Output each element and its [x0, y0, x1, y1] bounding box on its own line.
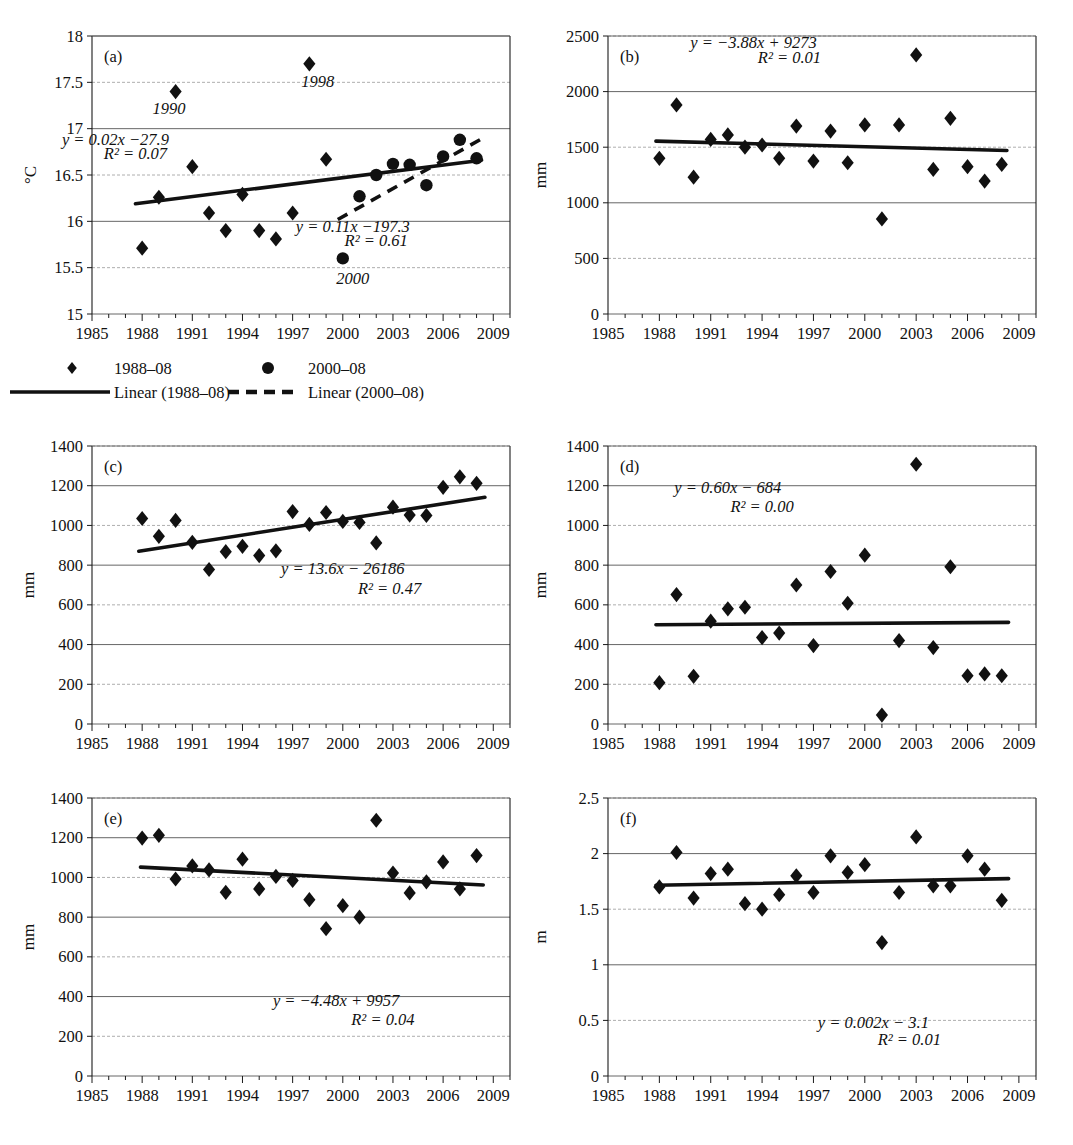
data-point-diamond [470, 476, 482, 491]
panel-f: 00.511.522.51985198819911994199720002003… [500, 780, 1073, 1120]
data-point-diamond [773, 151, 785, 166]
data-point-diamond [688, 170, 700, 185]
data-point-diamond [705, 614, 717, 629]
data-point-diamond [842, 596, 854, 611]
data-point-diamond [203, 562, 215, 577]
legend-label-linear-1988: Linear (1988–08) [114, 383, 230, 402]
x-tick-label: 2003 [900, 324, 933, 343]
legend-label-2000: 2000–08 [308, 359, 366, 378]
data-point-diamond [790, 118, 802, 133]
panel-c: 0200400600800100012001400198519881991199… [0, 428, 540, 758]
data-point-diamond [186, 159, 198, 174]
data-point-diamond [688, 669, 700, 684]
data-point-diamond [236, 539, 248, 554]
panel-id-label: (e) [104, 809, 122, 828]
y-axis-title: m [531, 930, 550, 943]
data-point-diamond [893, 633, 905, 648]
data-point-circle [403, 159, 415, 171]
x-tick-label: 2003 [900, 734, 933, 753]
data-point-diamond [773, 887, 785, 902]
annotation-text: R² = 0.04 [350, 1010, 414, 1029]
y-tick-label: 500 [574, 249, 599, 268]
y-tick-label: 0 [75, 1067, 83, 1086]
x-tick-label: 1994 [746, 324, 779, 343]
data-point-diamond [979, 666, 991, 681]
y-axis-title: mm [19, 924, 38, 950]
y-tick-label: 600 [58, 947, 83, 966]
y-tick-label: 2 [591, 844, 599, 863]
data-point-diamond [979, 174, 991, 189]
data-point-diamond [287, 504, 299, 519]
y-tick-label: 1400 [50, 437, 83, 456]
data-point-diamond [859, 857, 871, 872]
panel-id-label: (c) [104, 457, 122, 476]
y-tick-label: 0 [591, 1067, 599, 1086]
panel-d: 0200400600800100012001400198519881991199… [500, 428, 1073, 758]
data-point-diamond [910, 47, 922, 62]
data-point-diamond [303, 56, 315, 71]
annotation-text: 1998 [301, 72, 335, 91]
y-tick-label: 600 [574, 595, 599, 614]
panel-id-label: (b) [620, 47, 639, 66]
y-tick-label: 1400 [566, 437, 599, 456]
y-tick-label: 15.5 [54, 258, 83, 277]
data-point-diamond [996, 157, 1008, 172]
data-point-diamond [303, 517, 315, 532]
data-point-diamond [927, 162, 939, 177]
x-tick-label: 1991 [176, 324, 209, 343]
data-point-diamond [303, 892, 315, 907]
data-point-diamond [270, 231, 282, 246]
legend-circle-marker [262, 362, 274, 374]
plot-area-f: 00.511.522.51985198819911994199720002003… [531, 789, 1036, 1106]
data-point-diamond [404, 885, 416, 900]
x-tick-label: 1988 [643, 1086, 676, 1105]
data-point-diamond [842, 155, 854, 170]
data-point-diamond [824, 848, 836, 863]
annotation-text: 1990 [152, 99, 186, 118]
data-point-diamond [320, 505, 332, 520]
annotation-text: y = 13.6x − 26186 [279, 559, 405, 578]
y-tick-label: 200 [58, 675, 83, 694]
data-point-diamond [253, 548, 265, 563]
x-tick-label: 1985 [592, 1086, 625, 1105]
data-point-circle [454, 134, 466, 146]
x-tick-label: 1997 [797, 324, 830, 343]
data-point-diamond [153, 529, 165, 544]
data-point-circle [437, 150, 449, 162]
y-tick-label: 0.5 [578, 1011, 599, 1030]
annotation-text: 2000 [336, 269, 370, 288]
data-point-circle [420, 179, 432, 191]
x-tick-label: 2006 [951, 1086, 984, 1105]
x-tick-label: 2000 [848, 1086, 881, 1105]
trendline-dashed [338, 136, 487, 219]
data-point-diamond [220, 223, 232, 238]
data-point-diamond [437, 854, 449, 869]
data-point-diamond [944, 111, 956, 126]
legend-label-linear-2000: Linear (2000–08) [308, 383, 424, 402]
y-tick-label: 1.5 [578, 900, 599, 919]
data-point-diamond [337, 898, 349, 913]
data-point-diamond [454, 469, 466, 484]
data-point-diamond [353, 910, 365, 925]
y-tick-label: 800 [58, 908, 83, 927]
data-point-diamond [370, 813, 382, 828]
data-point-diamond [320, 152, 332, 167]
y-tick-label: 1000 [50, 516, 83, 535]
x-tick-label: 2006 [427, 324, 460, 343]
data-point-diamond [186, 535, 198, 550]
data-point-diamond [893, 117, 905, 132]
data-point-circle [370, 169, 382, 181]
data-point-diamond [876, 707, 888, 722]
panel-a: 1515.51616.51717.51819851988199119941997… [0, 18, 540, 348]
legend-label-1988: 1988–08 [114, 359, 172, 378]
x-tick-label: 1985 [76, 734, 109, 753]
data-point-diamond [807, 638, 819, 653]
y-tick-label: 600 [58, 595, 83, 614]
data-point-diamond [807, 885, 819, 900]
data-point-diamond [220, 885, 232, 900]
annotation-text: R² = 0.01 [757, 48, 821, 67]
y-tick-label: 800 [574, 556, 599, 575]
data-point-diamond [170, 871, 182, 886]
x-tick-label: 1988 [126, 324, 159, 343]
data-point-diamond [824, 123, 836, 138]
